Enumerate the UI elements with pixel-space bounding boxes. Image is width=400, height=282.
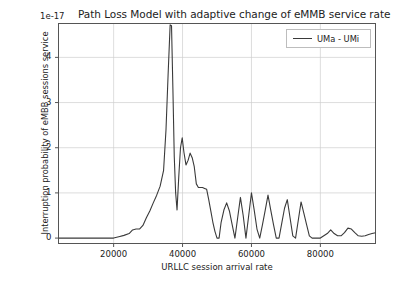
- x-tick-label: 80000: [290, 249, 350, 259]
- chart-legend: UMa - UMi: [286, 29, 371, 48]
- data-series-group: [59, 25, 376, 238]
- x-tick-label: 20000: [84, 249, 144, 259]
- y-tick-label: 1: [30, 187, 52, 197]
- y-tick-label: 4: [30, 51, 52, 61]
- legend-label-uma-umi: UMa - UMi: [317, 34, 359, 44]
- legend-line-swatch: [293, 38, 312, 39]
- plot-frame: [59, 24, 376, 244]
- chart-figure: Path Loss Model with adaptive change of …: [0, 0, 400, 282]
- x-tick-label: 60000: [221, 249, 281, 259]
- x-tick-label: 40000: [153, 249, 213, 259]
- y-tick-label: 3: [30, 97, 52, 107]
- y-tick-label: 2: [30, 142, 52, 152]
- y-tick-label: 0: [30, 232, 52, 242]
- gridlines: [59, 24, 376, 244]
- axis-ticks: [55, 57, 320, 247]
- data-line-uma-umi: [59, 25, 376, 238]
